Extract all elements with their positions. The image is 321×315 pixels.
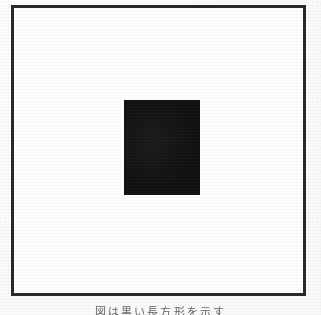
- figure-caption-text: 図は黒い長方形を示す: [0, 306, 321, 315]
- scanned-figure-page: 図は黒い長方形を示す: [0, 0, 321, 315]
- black-rectangle-shape: [124, 100, 200, 195]
- figure-frame-border: [11, 5, 306, 296]
- figure-caption: 図は黒い長方形を示す: [0, 303, 321, 315]
